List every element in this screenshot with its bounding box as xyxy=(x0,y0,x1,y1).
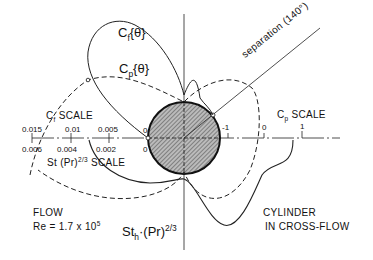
cf-theta-label: Cf{θ} xyxy=(118,26,146,39)
st-scale-label: St (Pr)2/3 SCALE xyxy=(47,158,125,168)
st-tick-0: 0 xyxy=(143,146,147,154)
cp-tick-0: 0 xyxy=(262,124,266,132)
sth-label: Sth·(Pr)2/3 xyxy=(122,225,177,238)
st-tick-0002: 0.002 xyxy=(96,146,116,154)
cf-scale-label: Cf SCALE xyxy=(46,111,93,121)
st-tick-0004: 0.004 xyxy=(57,146,77,154)
cf-tick-0005: 0.005 xyxy=(98,126,118,134)
st-tick-0006: 0.006 xyxy=(22,146,42,154)
cp-tick-1: 1 xyxy=(300,123,304,131)
cp-scale-label: Cp SCALE xyxy=(277,110,326,120)
cf-tick-0015: 0.015 xyxy=(22,126,42,134)
cf-tick-0: 0 xyxy=(143,127,147,135)
cp-tick-neg1: -1 xyxy=(222,124,229,132)
flow-label: FLOW xyxy=(33,208,63,218)
cf-tick-001: 0.01 xyxy=(65,126,81,134)
cp-theta-label: Cp{θ} xyxy=(119,62,149,75)
reynolds-label: Re = 1.7 x 105 xyxy=(33,222,101,232)
cylinder-label-line2: IN CROSS-FLOW xyxy=(265,222,349,232)
cylinder-label-line1: CYLINDER xyxy=(263,208,316,218)
